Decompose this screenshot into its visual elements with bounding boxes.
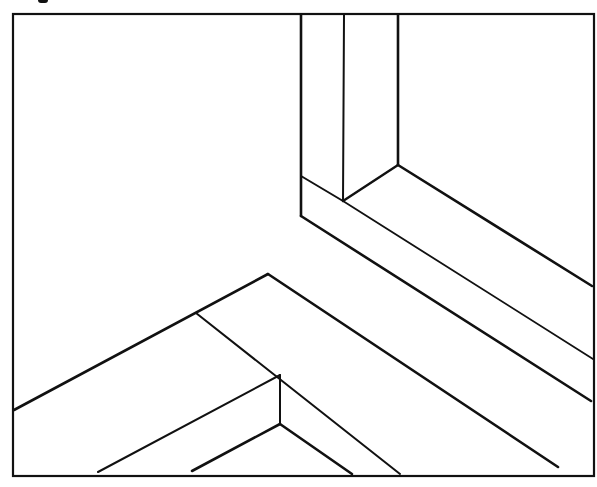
line-upper-rail-mid <box>343 201 593 359</box>
molding-corner-diagram <box>0 0 597 487</box>
line-lower-ridge-right <box>268 274 558 467</box>
line-lower-ridge-left <box>14 274 268 410</box>
line-lower-inner-left <box>98 375 280 472</box>
line-upper-rail-top <box>398 165 592 286</box>
line-upper-cap-left <box>301 176 343 201</box>
figure-frame <box>13 14 594 476</box>
drawing-lines <box>14 15 593 474</box>
line-lower-foot-right <box>280 424 352 474</box>
line-lower-inner-diag <box>196 313 400 474</box>
line-lower-foot-left <box>192 424 280 471</box>
line-upper-cap-right <box>343 165 398 201</box>
line-upper-rail-bottom <box>301 216 591 401</box>
line-upper-post-mid <box>343 15 344 201</box>
